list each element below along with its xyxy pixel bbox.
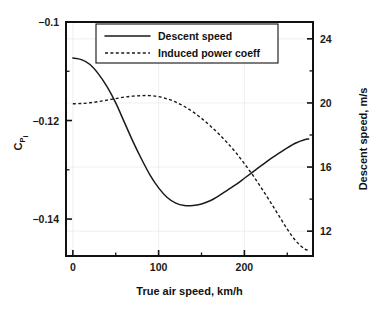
y-axis-left-title-subscript-i: i [21, 135, 30, 137]
x-axis-title: True air speed, km/h [136, 285, 243, 297]
legend-label-1: Induced power coeff [158, 47, 261, 59]
y-tick-label-right: 16 [320, 161, 332, 173]
x-tick-label: 100 [150, 261, 168, 273]
y-tick-label-right: 20 [320, 97, 332, 109]
y-tick-label-right: 12 [320, 225, 332, 237]
legend-label-0: Descent speed [158, 30, 232, 42]
chart-figure: 0100200−0.1−0.12−0.1424201612 Descent sp… [0, 0, 380, 309]
y-tick-label-left: −0.14 [32, 213, 59, 225]
y-axis-right-title-group: Descent speed, m/s [357, 88, 369, 191]
y-axis-right-title: Descent speed, m/s [357, 88, 369, 191]
x-tick-label: 200 [236, 261, 254, 273]
y-tick-label-left: −0.1 [38, 16, 59, 28]
x-tick-label: 0 [70, 261, 76, 273]
y-tick-label-left: −0.12 [32, 115, 59, 127]
y-axis-left-title-main: C [12, 143, 24, 151]
x-axis-title-group: True air speed, km/h [136, 285, 243, 297]
y-tick-label-right: 24 [320, 33, 332, 45]
chart-svg: 0100200−0.1−0.12−0.1424201612 Descent sp… [0, 0, 380, 309]
chart-legend[interactable]: Descent speedInduced power coeff [96, 24, 278, 63]
